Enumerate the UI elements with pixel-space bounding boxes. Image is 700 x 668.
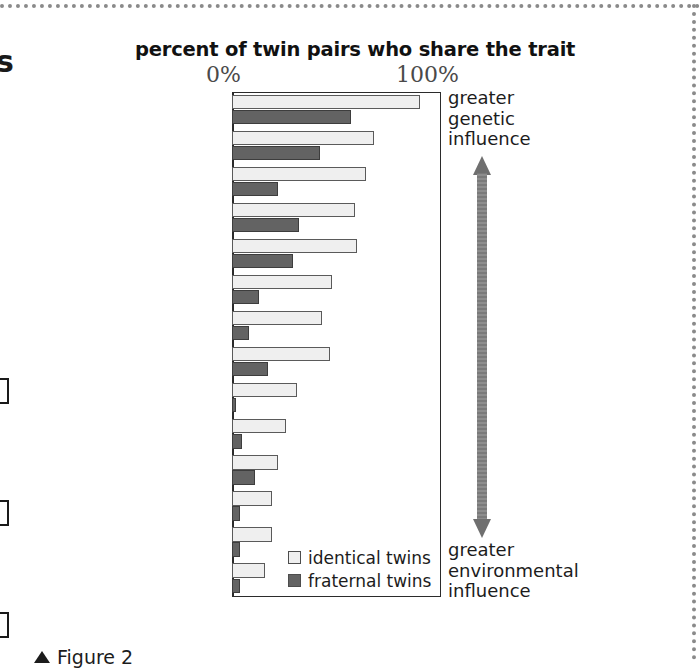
- bar-area: [232, 345, 441, 381]
- legend-swatch-identical: [288, 551, 301, 564]
- figure-caption: Figure 2: [34, 646, 133, 668]
- bar-fraternal: [232, 110, 351, 124]
- figure-caption-text: Figure 2: [57, 646, 133, 668]
- page-border-top: [0, 4, 700, 8]
- legend-label-identical: identical twins: [308, 548, 431, 568]
- figure-2: percent of twin pairs who share the trai…: [0, 30, 660, 630]
- bar-area: [232, 272, 441, 308]
- bar-area: [232, 489, 441, 525]
- bar-fraternal: [232, 326, 249, 340]
- bar-row: Crohn's disease: [0, 489, 441, 525]
- bar-row: autism: [0, 164, 441, 200]
- bar-row: multiple sclerosis: [0, 417, 441, 453]
- legend: identical twinsfraternal twins: [288, 546, 431, 592]
- bar-identical: [232, 563, 265, 577]
- annotation-greater-environmental-influence: greaterenvironmentalinfluence: [448, 540, 579, 602]
- bar-identical: [232, 311, 322, 325]
- bar-fraternal: [232, 579, 240, 593]
- x-axis-tick-0: 0%: [206, 62, 241, 87]
- bar-row: height: [0, 92, 441, 128]
- bar-identical: [232, 131, 374, 145]
- bar-identical: [232, 203, 355, 217]
- bar-row: schizophrenia: [0, 236, 441, 272]
- bar-area: [232, 308, 441, 344]
- annotation-top-line-1: greater: [448, 88, 531, 109]
- annotation-bottom-line-1: greater: [448, 540, 579, 561]
- bar-row: reading disability: [0, 128, 441, 164]
- bar-area: [232, 128, 441, 164]
- bar-area: [232, 453, 441, 489]
- bar-area: [232, 417, 441, 453]
- bar-area: [232, 200, 441, 236]
- bar-identical: [232, 455, 278, 469]
- bar-row: breast cancer: [0, 453, 441, 489]
- bar-row: bipolar disorder: [0, 308, 441, 344]
- bar-fraternal: [232, 506, 240, 520]
- annotation-greater-genetic-influence: greatergeneticinfluence: [448, 88, 531, 150]
- bar-area: [232, 164, 441, 200]
- bar-identical: [232, 527, 272, 541]
- bar-fraternal: [232, 218, 299, 232]
- bar-fraternal: [232, 470, 255, 484]
- bar-row: diabetes: [0, 381, 441, 417]
- legend-label-fraternal: fraternal twins: [308, 571, 431, 591]
- bar-fraternal: [232, 254, 293, 268]
- bar-identical: [232, 275, 332, 289]
- annotation-bottom-line-3: influence: [448, 581, 579, 602]
- legend-swatch-fraternal: [288, 574, 301, 587]
- bar-fraternal: [232, 290, 259, 304]
- bar-row: Alzheimer's: [0, 200, 441, 236]
- bar-identical: [232, 491, 272, 505]
- bar-area: [232, 381, 441, 417]
- bar-fraternal: [232, 146, 320, 160]
- bar-row: alcoholism: [0, 272, 441, 308]
- bar-fraternal: [232, 434, 242, 448]
- bar-identical: [232, 383, 297, 397]
- bar-fraternal: [232, 182, 278, 196]
- bar-identical: [232, 239, 357, 253]
- bar-identical: [232, 95, 420, 109]
- bar-area: [232, 92, 441, 128]
- bar-identical: [232, 419, 286, 433]
- bar-area: [232, 236, 441, 272]
- annotation-top-line-3: influence: [448, 129, 531, 150]
- bar-row: hypertension: [0, 345, 441, 381]
- double-headed-arrow-icon: [472, 156, 492, 538]
- annotation-top-line-2: genetic: [448, 109, 531, 130]
- bar-rows: heightreading disabilityautismAlzheimer'…: [0, 92, 441, 597]
- bar-fraternal: [232, 542, 240, 556]
- bar-fraternal: [232, 398, 236, 412]
- bar-identical: [232, 167, 366, 181]
- legend-item-identical: identical twins: [288, 546, 431, 569]
- page-border-right: [692, 4, 696, 660]
- up-triangle-icon: [34, 651, 50, 663]
- bar-fraternal: [232, 362, 268, 376]
- chart-title: percent of twin pairs who share the trai…: [135, 38, 515, 61]
- legend-item-fraternal: fraternal twins: [288, 569, 431, 592]
- bar-identical: [232, 347, 330, 361]
- x-axis-tick-100: 100%: [396, 62, 459, 87]
- annotation-bottom-line-2: environmental: [448, 561, 579, 582]
